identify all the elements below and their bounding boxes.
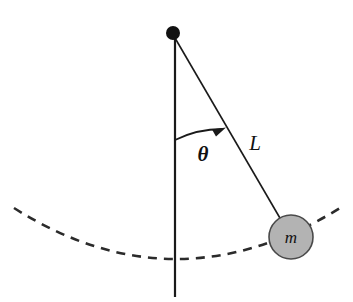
angle-label: θ <box>198 142 209 166</box>
mass-label: m <box>285 228 297 247</box>
length-label: L <box>248 131 261 155</box>
pendulum-string <box>175 38 291 237</box>
pendulum-figure-canvas: θ L m <box>0 0 353 302</box>
pendulum-diagram: θ L m <box>0 0 353 302</box>
pivot-point <box>166 26 180 40</box>
